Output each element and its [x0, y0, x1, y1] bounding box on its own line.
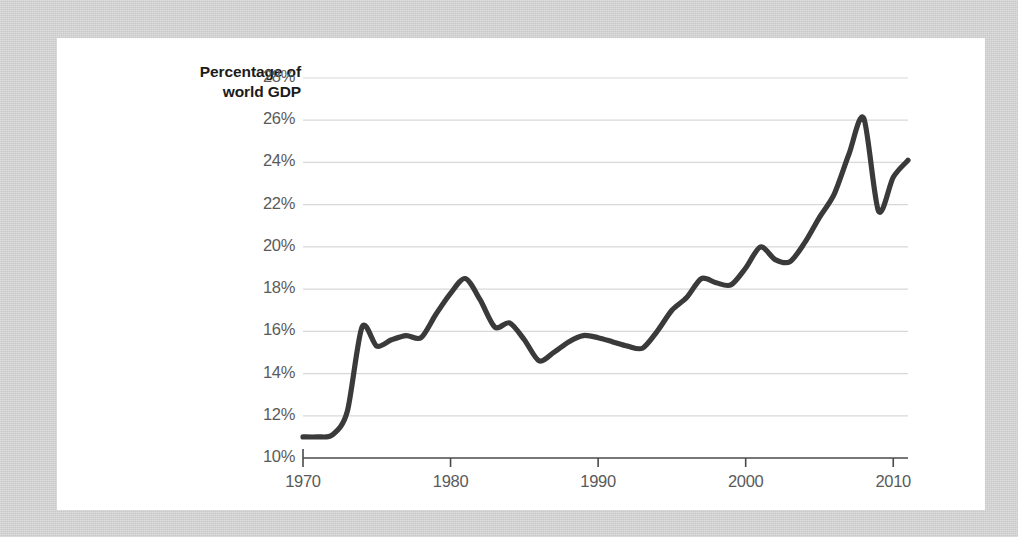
x-tick-mark-group	[303, 458, 893, 467]
data-series-line	[303, 117, 908, 437]
gridline-group	[303, 78, 908, 416]
chart-plot-container: Percentage of world GDP 10%12%14%16%18%2…	[57, 38, 985, 510]
chart-panel: Percentage of world GDP 10%12%14%16%18%2…	[57, 38, 985, 510]
line-chart-svg	[57, 38, 985, 510]
axis-group	[303, 449, 908, 458]
chart-screenshot-root: Percentage of world GDP 10%12%14%16%18%2…	[0, 0, 1018, 537]
